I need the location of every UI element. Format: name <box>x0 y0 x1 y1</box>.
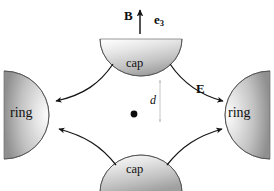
electric-field-label: E <box>196 82 205 95</box>
magnetic-field-label: B <box>124 9 133 22</box>
physics-diagram: ring ring cap cap B e3 E d <box>0 0 274 191</box>
ring-right-label: ring <box>228 106 251 120</box>
basis-vector-label: e3 <box>154 13 164 27</box>
ring-left-label: ring <box>10 106 33 120</box>
cap-top-label: cap <box>126 57 143 70</box>
field-line-top-left <box>56 64 113 101</box>
field-line-bottom-left <box>59 129 116 165</box>
origin-dot <box>131 111 138 118</box>
field-line-bottom-right <box>167 129 222 165</box>
basis-vector-subscript: 3 <box>160 18 164 28</box>
distance-label: d <box>150 94 156 106</box>
cap-bottom-label: cap <box>126 163 143 176</box>
